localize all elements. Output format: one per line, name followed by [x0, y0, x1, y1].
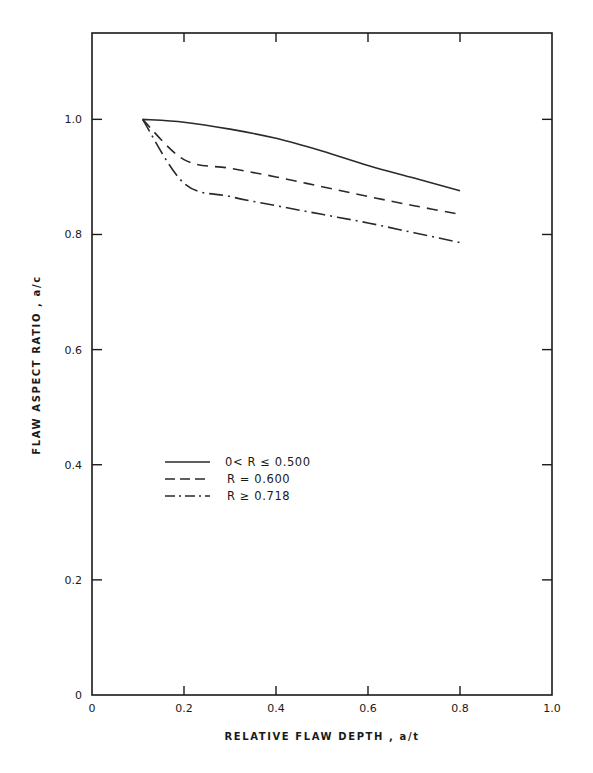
y-tick-label: 1.0 [65, 113, 83, 126]
series-line-dashdot [143, 119, 460, 242]
x-tick-label: 0.4 [267, 702, 285, 715]
x-tick-label: 1.0 [543, 702, 561, 715]
data-series [143, 119, 460, 242]
series-line-solid [143, 119, 460, 190]
y-tick-label: 0.2 [65, 574, 83, 587]
axis-ticks: 00.20.40.60.81.000.20.40.60.81.0 [65, 33, 561, 715]
x-tick-label: 0 [89, 702, 96, 715]
plot-border [92, 33, 552, 695]
x-tick-label: 0.8 [451, 702, 469, 715]
legend-label: R = 0.600 [227, 472, 290, 486]
series-line-dashed [143, 119, 460, 214]
x-axis-title: RELATIVE FLAW DEPTH , a/t [224, 731, 419, 742]
chart: 00.20.40.60.81.000.20.40.60.81.0 0< R ≤ … [0, 0, 593, 773]
y-tick-label: 0.6 [65, 344, 83, 357]
x-tick-label: 0.2 [175, 702, 193, 715]
y-tick-label: 0 [75, 689, 82, 702]
x-tick-label: 0.6 [359, 702, 377, 715]
y-tick-label: 0.4 [65, 459, 83, 472]
legend: 0< R ≤ 0.500R = 0.600R ≥ 0.718 [165, 455, 311, 503]
y-axis-title: FLAW ASPECT RATIO , a/c [31, 275, 42, 454]
plot-frame [92, 33, 552, 695]
y-tick-label: 0.8 [65, 228, 83, 241]
legend-label: R ≥ 0.718 [227, 489, 290, 503]
legend-label: 0< R ≤ 0.500 [225, 455, 311, 469]
